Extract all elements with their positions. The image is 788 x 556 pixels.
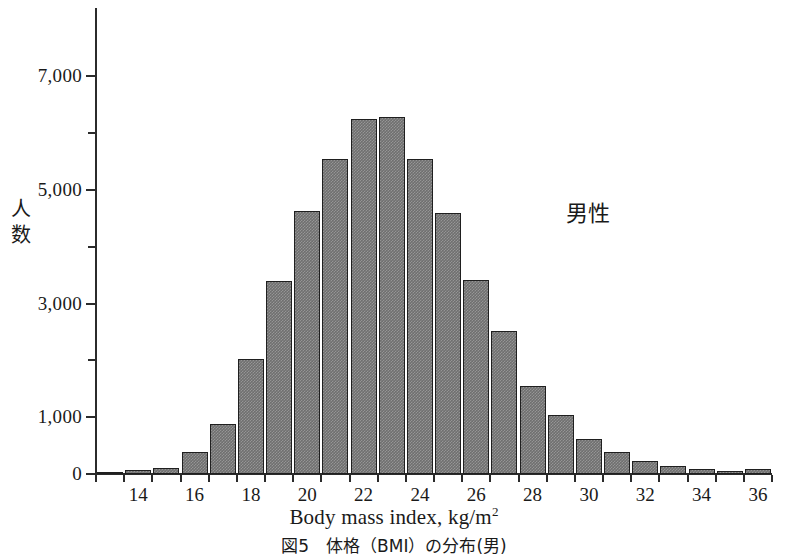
histogram-bar — [125, 470, 151, 474]
x-axis-tick — [630, 475, 632, 482]
x-axis-tick — [574, 475, 576, 482]
histogram-bar — [210, 424, 236, 474]
histogram-bar — [97, 472, 123, 474]
histogram-bar — [238, 359, 264, 474]
histogram-bar — [379, 117, 405, 474]
x-axis-tick — [123, 475, 125, 482]
x-axis-tick — [264, 475, 266, 482]
histogram-bar — [351, 119, 377, 474]
y-axis-tick-minor — [88, 246, 96, 248]
histogram-bar — [632, 461, 658, 474]
y-axis-title: 人数 — [8, 196, 34, 248]
y-axis-tick-label: 1,000 — [4, 407, 82, 426]
histogram-bar — [435, 213, 461, 474]
x-axis-tick-label: 32 — [615, 484, 675, 506]
y-axis-tick-minor — [88, 359, 96, 361]
x-axis-tick-label: 36 — [728, 484, 788, 506]
x-axis-tick — [349, 475, 351, 482]
histogram-bar — [322, 159, 348, 474]
x-axis-tick — [236, 475, 238, 482]
histogram-bar — [520, 386, 546, 474]
y-axis-tick-major — [86, 75, 96, 77]
x-axis-tick — [377, 475, 379, 482]
histogram-bar — [153, 468, 179, 474]
x-axis-tick — [743, 475, 745, 482]
x-axis-tick-label: 22 — [334, 484, 394, 506]
x-axis-tick — [180, 475, 182, 482]
histogram-bars — [96, 8, 772, 474]
x-axis-tick-label: 14 — [108, 484, 168, 506]
y-axis-tick-minor — [88, 132, 96, 134]
y-axis-tick-label-wrap: 3,000 — [0, 294, 82, 313]
y-axis-tick-label: 0 — [4, 464, 82, 483]
x-axis-tick-label: 18 — [221, 484, 281, 506]
histogram-bar — [604, 452, 630, 474]
x-axis-tick-label: 30 — [559, 484, 619, 506]
y-axis-tick-major — [86, 416, 96, 418]
x-axis-tick — [292, 475, 294, 482]
figure-caption: 図5 体格（BMI）の分布(男) — [0, 536, 788, 556]
histogram-bar — [294, 211, 320, 474]
figure-bmi-distribution: 人数 01,0003,0005,0007,000 141618202224262… — [0, 0, 788, 556]
x-axis-tick — [687, 475, 689, 482]
x-axis-tick — [405, 475, 407, 482]
y-axis-tick-major — [86, 303, 96, 305]
x-axis-tick — [151, 475, 153, 482]
histogram-bar — [491, 331, 517, 474]
y-axis-tick-label: 3,000 — [4, 294, 82, 313]
y-axis-tick-label: 7,000 — [4, 66, 82, 85]
x-axis-tick-label: 28 — [503, 484, 563, 506]
histogram-bar — [266, 281, 292, 474]
x-axis-tick-label: 16 — [165, 484, 225, 506]
histogram-bar — [689, 469, 715, 474]
histogram-bar — [576, 439, 602, 474]
y-axis-tick-label-wrap: 7,000 — [0, 66, 82, 85]
histogram-bar — [717, 471, 743, 474]
y-axis-tick-label: 5,000 — [4, 180, 82, 199]
x-axis-tick-label: 24 — [390, 484, 450, 506]
x-axis-tick-label: 20 — [277, 484, 337, 506]
x-axis-tick — [602, 475, 604, 482]
x-axis-tick — [489, 475, 491, 482]
x-axis-tick — [433, 475, 435, 482]
y-axis-tick-label-wrap: 5,000 — [0, 180, 82, 199]
histogram-bar — [463, 280, 489, 474]
y-axis-tick-major — [86, 189, 96, 191]
x-axis-tick — [95, 475, 97, 482]
x-axis-title-text: Body mass index, kg/m — [289, 505, 492, 529]
x-axis-tick-label: 34 — [672, 484, 732, 506]
x-axis-tick-label: 26 — [446, 484, 506, 506]
x-axis-tick — [771, 475, 773, 482]
x-axis-tick — [715, 475, 717, 482]
histogram-bar — [407, 159, 433, 474]
x-axis-tick — [208, 475, 210, 482]
x-axis-title: Body mass index, kg/m2 — [0, 505, 788, 529]
x-axis-tick — [320, 475, 322, 482]
x-axis-tick — [658, 475, 660, 482]
x-axis-tick — [518, 475, 520, 482]
histogram-bar — [660, 466, 686, 474]
x-axis-tick — [461, 475, 463, 482]
series-annotation-male: 男性 — [566, 201, 610, 227]
y-axis-tick-label-wrap: 0 — [0, 464, 82, 483]
histogram-bar — [182, 452, 208, 474]
x-axis-tick — [546, 475, 548, 482]
histogram-bar — [548, 415, 574, 474]
y-axis-tick-label-wrap: 1,000 — [0, 407, 82, 426]
x-axis-title-superscript: 2 — [492, 504, 499, 519]
histogram-bar — [745, 469, 771, 474]
